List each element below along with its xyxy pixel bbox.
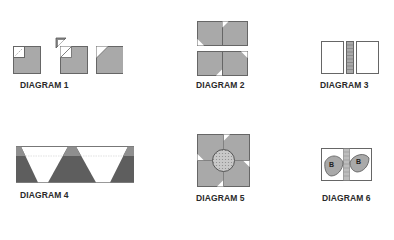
- diagram-2-label: DIAGRAM 2: [196, 80, 245, 90]
- diagram-4-label: DIAGRAM 4: [20, 190, 69, 200]
- diagram-5-figure: [197, 134, 251, 188]
- diagram-1-figure: [13, 37, 123, 77]
- diagram-3-label: DIAGRAM 3: [320, 80, 369, 90]
- square-with-pressed-corner: [97, 47, 124, 74]
- leaf-letter-right: B: [356, 158, 361, 165]
- diagram-2-figure: [197, 21, 249, 77]
- diagram-6-figure: B B: [321, 148, 373, 182]
- square-with-corner-square: [14, 47, 41, 74]
- square-with-trimmed-corner: [56, 38, 88, 74]
- diagram-5-label: DIAGRAM 5: [196, 193, 245, 203]
- diagram-4-figure: [16, 146, 136, 183]
- diagram-3-figure: [321, 41, 381, 74]
- diagram-1-label: DIAGRAM 1: [20, 80, 69, 90]
- diagram-6-label: DIAGRAM 6: [322, 193, 371, 203]
- leaf-letter-left: B: [329, 161, 334, 168]
